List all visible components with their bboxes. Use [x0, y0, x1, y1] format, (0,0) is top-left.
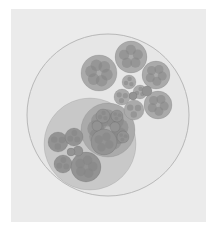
leaf-circle	[63, 164, 69, 170]
node-circle-bl-f	[67, 148, 75, 156]
leaf-circle	[160, 102, 169, 111]
leaf-circle	[84, 168, 94, 178]
leaf-circle	[118, 113, 122, 117]
leaf-circle	[121, 138, 125, 142]
leaf-circle	[158, 72, 167, 81]
leaf-circle	[59, 137, 65, 143]
leaf-circle	[103, 116, 107, 120]
leaf-circle	[61, 157, 67, 163]
leaf-circle	[124, 134, 128, 138]
leaf-circle	[102, 133, 110, 141]
leaf-circle	[101, 111, 105, 115]
leaf-circle	[119, 133, 123, 137]
leaf-circle	[95, 135, 103, 143]
leaf-circle	[98, 115, 102, 119]
leaf-circle	[115, 117, 119, 121]
leaf-circle	[124, 81, 128, 85]
leaf-circle	[55, 143, 61, 149]
leaf-circle	[56, 163, 62, 169]
node-circle-brs-e	[92, 121, 102, 131]
leaf-circle	[129, 82, 133, 86]
leaf-circle	[127, 77, 131, 81]
leaf-circle	[127, 104, 133, 110]
node-circle-top-10	[129, 92, 137, 100]
leaf-circle	[105, 140, 113, 148]
leaf-circle	[97, 143, 105, 151]
leaf-circle	[91, 60, 103, 72]
leaf-circle	[72, 130, 78, 136]
leaf-circle	[117, 92, 122, 97]
leaf-circle	[74, 137, 80, 143]
circle-packing-diagram	[0, 0, 224, 238]
node-circle-brs-a	[91, 129, 117, 155]
leaf-circle	[123, 93, 128, 98]
node-circle-brs-d	[110, 122, 120, 132]
leaf-circle	[119, 98, 124, 103]
leaf-circle	[67, 136, 73, 142]
leaf-circle	[113, 112, 117, 116]
node-circle-top-9	[142, 86, 152, 96]
leaf-circle	[51, 136, 57, 142]
leaf-circle	[122, 58, 132, 68]
leaf-circle	[131, 111, 137, 117]
leaf-circle	[135, 105, 141, 111]
